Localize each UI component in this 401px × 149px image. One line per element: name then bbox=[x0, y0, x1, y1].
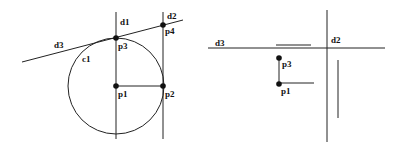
label-d1: d1 bbox=[120, 17, 130, 27]
left-figure: d1 d2 d3 c1 p1 p2 p3 p4 bbox=[22, 11, 183, 139]
label-c1: c1 bbox=[82, 54, 91, 64]
label-d2: d2 bbox=[167, 11, 177, 21]
point-p3 bbox=[276, 55, 282, 61]
label-p3: p3 bbox=[282, 59, 292, 69]
label-p3: p3 bbox=[118, 41, 128, 51]
label-p2: p2 bbox=[165, 89, 175, 99]
point-p2 bbox=[160, 83, 166, 89]
label-p1: p1 bbox=[281, 86, 291, 96]
line-d3 bbox=[22, 20, 183, 62]
point-p1 bbox=[113, 83, 119, 89]
right-figure: d3 d2 p3 p1 bbox=[208, 10, 385, 142]
label-d3: d3 bbox=[215, 38, 225, 48]
label-p4: p4 bbox=[165, 26, 175, 36]
diagram-canvas: d1 d2 d3 c1 p1 p2 p3 p4 d3 d2 p3 p1 bbox=[0, 0, 401, 149]
label-p1: p1 bbox=[118, 89, 128, 99]
label-d3: d3 bbox=[54, 40, 64, 50]
label-d2: d2 bbox=[331, 35, 341, 45]
point-p3 bbox=[113, 35, 119, 41]
